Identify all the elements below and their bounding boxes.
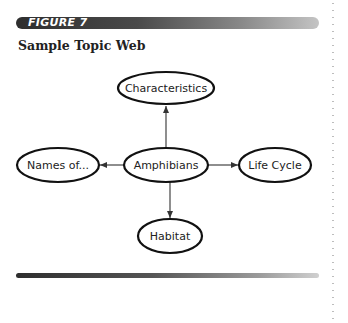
node-habitat-label: Habitat: [150, 230, 191, 243]
node-habitat: Habitat: [138, 219, 202, 253]
node-life-cycle-label: Life Cycle: [248, 159, 302, 172]
dotted-margin-rule: [332, 0, 334, 323]
node-life-cycle: Life Cycle: [239, 148, 311, 182]
node-names-of: Names of...: [17, 148, 99, 182]
node-amphibians: Amphibians: [124, 148, 208, 182]
node-characteristics-label: Characteristics: [125, 82, 208, 95]
node-characteristics: Characteristics: [118, 72, 214, 104]
node-names-of-label: Names of...: [27, 159, 89, 172]
node-amphibians-label: Amphibians: [134, 159, 199, 172]
figure-footer-bar: [16, 273, 319, 278]
